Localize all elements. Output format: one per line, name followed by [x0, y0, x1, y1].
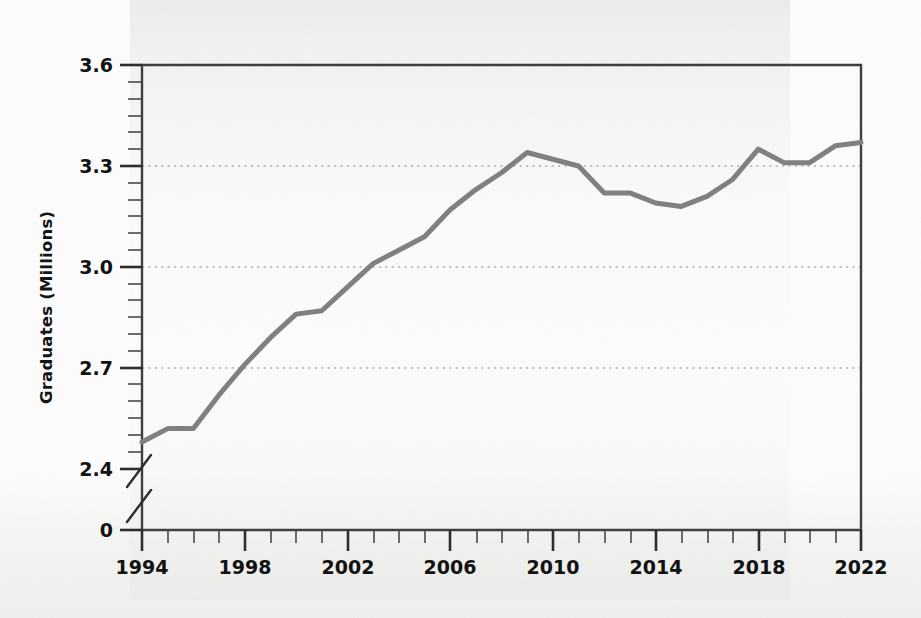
x-axis-label-2006: 2006	[424, 556, 477, 578]
chart-page: Graduates (Millions)	[0, 0, 921, 618]
y-axis-label-3-3: 3.3	[79, 155, 113, 177]
y-axis-label-2-7: 2.7	[79, 357, 113, 379]
axis-break-slash-lower	[127, 490, 151, 522]
y-axis-label-3-6: 3.6	[79, 54, 113, 76]
y-axis-label-2-4: 2.4	[79, 458, 113, 480]
line-chart: Graduates (Millions)	[0, 0, 921, 618]
x-axis-label-2018: 2018	[733, 556, 786, 578]
x-axis-label-1994: 1994	[116, 556, 169, 578]
x-axis-minor-ticks	[168, 530, 836, 543]
x-axis-label-1998: 1998	[219, 556, 272, 578]
x-axis-tick-labels: 1994 1998 2002 2006 2010 2014 2018 2022	[116, 556, 888, 578]
grid-lines	[142, 166, 861, 368]
y-axis-major-ticks	[120, 65, 142, 530]
y-axis-break-icon	[127, 455, 151, 522]
y-axis-title: Graduates (Millions)	[37, 211, 56, 404]
x-axis-label-2002: 2002	[322, 556, 375, 578]
y-axis-tick-labels: 3.6 3.3 3.0 2.7 2.4 0	[79, 54, 113, 541]
x-axis-label-2022: 2022	[835, 556, 888, 578]
x-axis-label-2010: 2010	[527, 556, 580, 578]
y-axis-label-3-0: 3.0	[79, 256, 113, 278]
axis-break-slash-upper	[127, 455, 151, 487]
x-axis-label-2014: 2014	[630, 556, 683, 578]
series-line-graduates	[142, 142, 861, 442]
data-series-group	[142, 142, 861, 442]
y-axis-label-0: 0	[100, 519, 113, 541]
plot-frame	[142, 65, 861, 530]
y-axis-title-text: Graduates (Millions)	[37, 211, 56, 404]
